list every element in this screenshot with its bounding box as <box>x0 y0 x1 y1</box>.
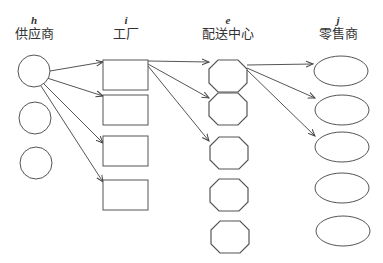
retailer-node-ellipse <box>315 132 369 162</box>
factory-node-rect <box>103 95 148 125</box>
edge-arrow-e0-j0 <box>247 64 313 65</box>
edges-layer <box>41 61 315 182</box>
column-label-retailers: j 零售商 <box>305 14 371 41</box>
column-key: h <box>4 14 64 26</box>
column-name: 配送中心 <box>186 26 270 41</box>
factory-node-rect <box>103 180 148 210</box>
supplier-node-circle <box>19 102 51 134</box>
factory-node-rect <box>103 60 148 90</box>
distribution-center-node-octagon <box>209 60 247 92</box>
column-name: 供应商 <box>4 26 64 41</box>
distribution-center-node-octagon <box>209 93 247 125</box>
distribution-center-node-octagon <box>210 179 248 211</box>
edge-arrow-e0-j1 <box>247 68 315 98</box>
nodes-layer <box>18 55 370 253</box>
edge-arrow-e0-j2 <box>247 70 315 136</box>
column-label-suppliers: h 供应商 <box>4 14 64 41</box>
column-name: 工厂 <box>96 26 156 41</box>
edge-arrow-i0-e0 <box>148 61 209 62</box>
retailer-node-ellipse <box>316 216 370 246</box>
column-name: 零售商 <box>305 26 371 41</box>
retailer-node-ellipse <box>315 95 369 125</box>
edge-arrow-i0-e2 <box>148 66 209 141</box>
retailer-node-ellipse <box>315 173 369 203</box>
supplier-node-circle <box>18 55 50 87</box>
edge-arrow-h0-i0 <box>50 62 103 71</box>
retailer-node-ellipse <box>314 56 368 86</box>
edge-arrow-i0-e1 <box>148 64 209 98</box>
edge-arrow-h0-i1 <box>47 78 103 96</box>
column-label-factories: i 工厂 <box>96 14 156 41</box>
column-key: j <box>305 14 371 26</box>
column-key: e <box>186 14 270 26</box>
distribution-center-node-octagon <box>210 137 248 169</box>
distribution-center-node-octagon <box>211 221 249 253</box>
supplier-node-circle <box>20 147 52 179</box>
column-key: i <box>96 14 156 26</box>
column-label-distribution-centers: e 配送中心 <box>186 14 270 41</box>
factory-node-rect <box>103 136 148 166</box>
